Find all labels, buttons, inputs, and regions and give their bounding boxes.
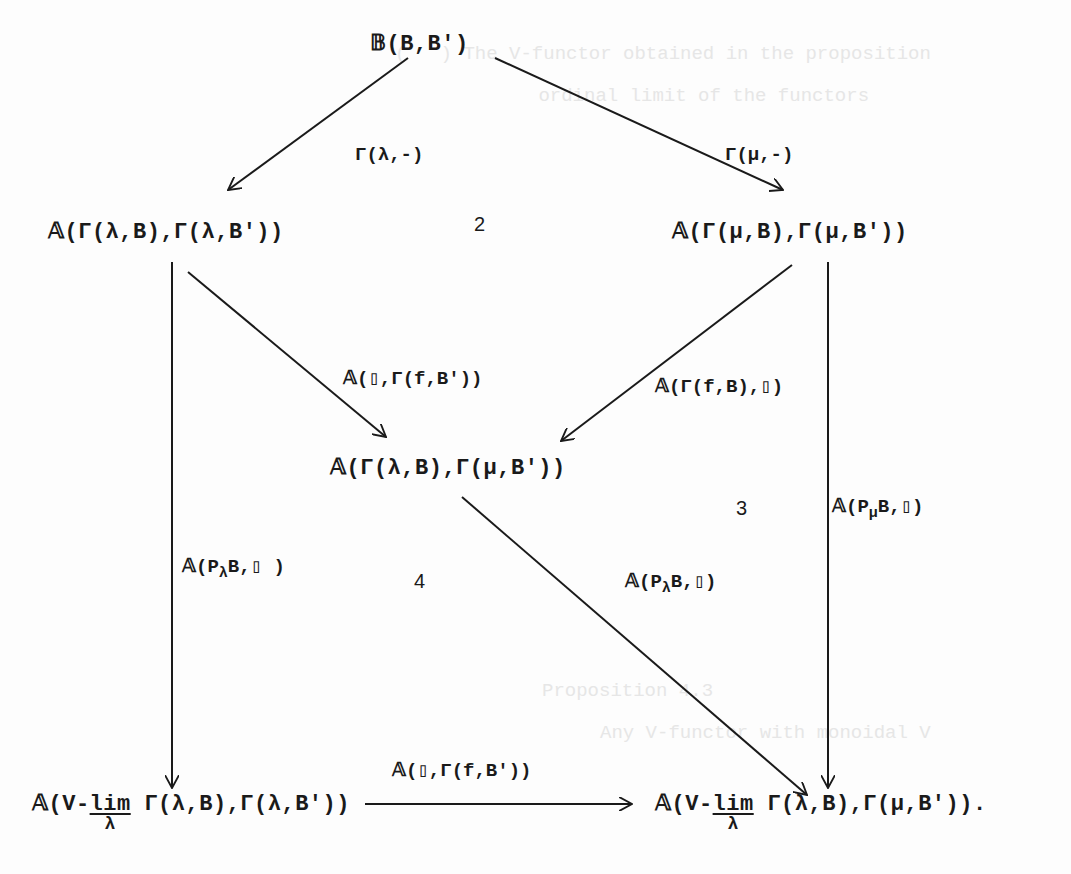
arrow-middle-to-bottom-right xyxy=(462,497,807,795)
label-top-to-right: Γ(μ,-) xyxy=(725,144,793,166)
node-right: 𝔸(Γ(μ,B),Γ(μ,B′)) xyxy=(672,218,908,245)
region-number-4: 4 xyxy=(414,570,425,593)
arrow-top-to-right xyxy=(495,58,783,190)
arrow-layer xyxy=(0,0,1071,874)
label-bottom-left-to-bottom-right: 𝔸(▯,Γ(f,B′)) xyxy=(392,758,531,782)
label-left-to-middle: 𝔸(▯,Γ(f,B′)) xyxy=(343,366,482,390)
label-suffix: B,▯ ) xyxy=(228,556,285,578)
node-left: 𝔸(Γ(λ,B),Γ(λ,B′)) xyxy=(48,218,284,245)
arrow-top-to-left xyxy=(228,58,408,190)
arrow-right-to-middle xyxy=(561,265,792,441)
label-right-to-middle: 𝔸(Γ(f,B),▯) xyxy=(655,374,783,398)
region-number-3: 3 xyxy=(736,497,747,520)
label-subscript: λ xyxy=(219,565,228,582)
node-bottom-right-prefix: 𝔸(V- xyxy=(655,792,713,817)
lim-subscript: λ xyxy=(728,814,739,834)
node-bottom-right-suffix: Γ(λ,B),Γ(μ,B′)). xyxy=(754,792,987,817)
label-prefix: 𝔸(P xyxy=(182,556,219,578)
lim-subscript: λ xyxy=(105,814,116,834)
arrow-left-to-middle xyxy=(188,272,386,437)
label-left-to-bottom-left: 𝔸(PλB,▯ ) xyxy=(182,554,285,582)
node-bottom-left-prefix: 𝔸(V- xyxy=(32,792,90,817)
label-prefix: 𝔸(P xyxy=(832,496,869,518)
label-suffix: B,▯) xyxy=(878,496,924,518)
label-subscript: λ xyxy=(662,580,671,597)
region-number-2: 2 xyxy=(474,213,485,236)
node-middle: 𝔸(Γ(λ,B),Γ(μ,B′)) xyxy=(330,454,566,481)
label-suffix: B,▯) xyxy=(671,571,717,593)
label-right-to-bottom-right: 𝔸(PμB,▯) xyxy=(832,494,923,522)
lim-operator: limλ xyxy=(90,792,131,817)
label-top-to-left: Γ(λ,-) xyxy=(355,144,423,166)
node-top: 𝔹(B,B′) xyxy=(370,30,469,57)
label-middle-to-bottom-right: 𝔸(PλB,▯) xyxy=(625,569,716,597)
label-prefix: 𝔸(P xyxy=(625,571,662,593)
label-subscript: μ xyxy=(869,505,878,522)
node-bottom-left: 𝔸(V-limλ Γ(λ,B),Γ(λ,B′)) xyxy=(32,790,350,817)
node-bottom-right: 𝔸(V-limλ Γ(λ,B),Γ(μ,B′)). xyxy=(655,790,987,817)
node-bottom-left-suffix: Γ(λ,B),Γ(λ,B′)) xyxy=(131,792,350,817)
lim-operator: limλ xyxy=(713,792,754,817)
